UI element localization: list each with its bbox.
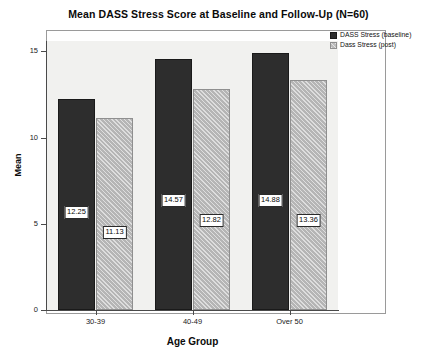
bar-40-49-post — [193, 89, 230, 310]
data-label-over-50-post: 13.36 — [296, 214, 321, 227]
data-label-40-49-post: 12.82 — [199, 214, 224, 227]
y-tick-label-15: 15 — [0, 46, 38, 55]
data-label-40-49-baseline: 14.57 — [161, 194, 186, 207]
x-tick-40-49 — [193, 311, 194, 315]
legend-swatch-baseline — [330, 32, 337, 39]
legend-label-baseline: DASS Stress (baseline) — [340, 31, 411, 39]
bar-chart-figure: Mean DASS Stress Score at Baseline and F… — [0, 0, 437, 361]
legend-label-post: Dass Stress (post) — [340, 41, 396, 49]
data-label-30-39-baseline: 12.25 — [64, 206, 89, 219]
y-tick-5 — [41, 224, 46, 225]
data-label-30-39-post: 11.13 — [102, 226, 126, 239]
x-tick-label-30-39: 30-39 — [61, 317, 131, 326]
x-tick-over-50 — [290, 311, 291, 315]
y-tick-0 — [41, 310, 46, 311]
y-tick-label-0: 0 — [0, 305, 38, 314]
y-axis-line — [46, 41, 47, 311]
chart-legend: DASS Stress (baseline)Dass Stress (post) — [330, 31, 437, 51]
legend-swatch-post — [330, 42, 337, 49]
chart-title: Mean DASS Stress Score at Baseline and F… — [0, 8, 437, 20]
plot-area: 12.2511.1314.5712.8214.8813.36 — [47, 41, 338, 310]
bar-40-49-baseline — [155, 59, 192, 310]
y-tick-15 — [41, 51, 46, 52]
bar-30-39-baseline — [58, 99, 95, 310]
bar-over-50-post — [290, 80, 327, 310]
x-tick-30-39 — [96, 311, 97, 315]
x-tick-label-40-49: 40-49 — [158, 317, 228, 326]
y-axis-title: Mean — [13, 125, 23, 205]
bar-30-39-post — [96, 118, 133, 310]
bar-over-50-baseline — [252, 53, 289, 310]
legend-item-post: Dass Stress (post) — [330, 41, 437, 50]
y-tick-10 — [41, 138, 46, 139]
x-tick-label-over-50: Over 50 — [255, 317, 325, 326]
y-tick-label-5: 5 — [0, 219, 38, 228]
legend-item-baseline: DASS Stress (baseline) — [330, 31, 437, 40]
data-label-over-50-baseline: 14.88 — [258, 194, 283, 207]
x-axis-title: Age Group — [46, 336, 339, 347]
